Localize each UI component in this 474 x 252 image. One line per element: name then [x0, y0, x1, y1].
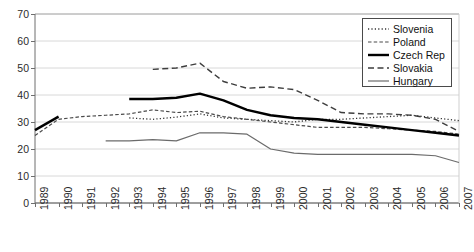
x-tick-label: 1992	[110, 187, 120, 210]
x-tick-label: 2001	[322, 187, 332, 210]
x-tick-label: 2004	[392, 187, 402, 210]
x-tick-label: 2005	[416, 187, 426, 210]
legend-label: Hungary	[393, 75, 433, 87]
x-tick-mark	[82, 203, 83, 207]
x-tick-mark	[271, 203, 272, 207]
series-line-poland	[35, 110, 459, 136]
x-tick-label: 1994	[157, 187, 167, 210]
x-tick-mark	[223, 203, 224, 207]
x-tick-mark	[176, 203, 177, 207]
x-tick-mark	[59, 203, 60, 207]
legend-label: Slovenia	[393, 23, 433, 35]
legend-label: Poland	[393, 36, 426, 48]
series-line-hungary	[106, 133, 459, 163]
x-tick-mark	[35, 203, 36, 207]
chart-legend: SloveniaPolandCzech RepSlovakiaHungary	[362, 18, 452, 87]
legend-label: Czech Rep	[393, 49, 445, 61]
x-tick-mark	[388, 203, 389, 207]
x-tick-mark	[459, 203, 460, 207]
x-tick-label: 1999	[275, 187, 285, 210]
legend-item-slovakia[interactable]: Slovakia	[367, 61, 449, 74]
legend-item-czech-rep[interactable]: Czech Rep	[367, 48, 449, 61]
x-tick-label: 1996	[204, 187, 214, 210]
x-tick-mark	[200, 203, 201, 207]
x-tick-label: 1991	[86, 187, 96, 210]
legend-line-swatch	[367, 62, 390, 74]
legend-line-swatch	[367, 36, 390, 48]
x-tick-mark	[129, 203, 130, 207]
x-tick-mark	[365, 203, 366, 207]
legend-item-hungary[interactable]: Hungary	[367, 74, 449, 87]
x-tick-label: 1997	[227, 187, 237, 210]
x-tick-label: 2000	[298, 187, 308, 210]
x-tick-mark	[435, 203, 436, 207]
x-tick-label: 2006	[439, 187, 449, 210]
x-tick-label: 2007	[463, 187, 473, 210]
legend-item-poland[interactable]: Poland	[367, 35, 449, 48]
legend-item-slovenia[interactable]: Slovenia	[367, 22, 449, 35]
x-tick-label: 1993	[133, 187, 143, 210]
x-tick-label: 2003	[369, 187, 379, 210]
x-tick-mark	[153, 203, 154, 207]
legend-label: Slovakia	[393, 62, 433, 74]
x-tick-label: 2002	[345, 187, 355, 210]
x-tick-mark	[106, 203, 107, 207]
x-tick-mark	[294, 203, 295, 207]
x-tick-label: 1989	[39, 187, 49, 210]
x-tick-mark	[341, 203, 342, 207]
x-tick-label: 1990	[63, 187, 73, 210]
x-tick-label: 1995	[180, 187, 190, 210]
x-tick-label: 1998	[251, 187, 261, 210]
legend-line-swatch	[367, 49, 390, 61]
x-tick-mark	[318, 203, 319, 207]
x-tick-mark	[412, 203, 413, 207]
legend-line-swatch	[367, 23, 390, 35]
legend-line-swatch	[367, 75, 390, 87]
x-tick-mark	[247, 203, 248, 207]
